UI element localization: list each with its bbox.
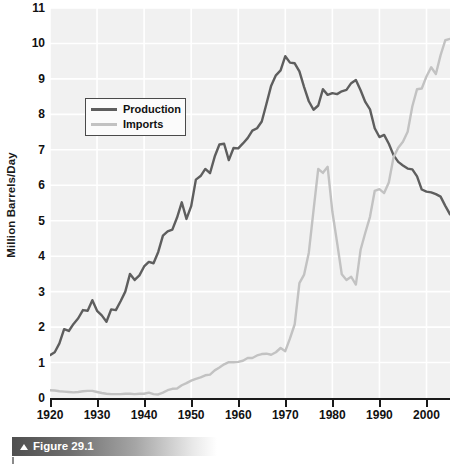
y-axis-tick-labels: 01234567891011 [22,0,50,410]
x-tick-mark [144,400,146,407]
x-tick-label: 1960 [225,408,252,422]
y-tick-label: 11 [32,2,45,14]
y-tick-label: 1 [38,357,45,369]
legend-label-production: Production [123,104,181,115]
y-tick-label: 2 [38,321,45,333]
x-tick-label: 1930 [84,408,111,422]
y-axis-title-text: Million Barrels/Day [5,152,17,257]
y-tick-label: 4 [38,250,45,262]
x-axis-tick-labels: 192019301940195019601970198019902000 [50,408,450,426]
legend-swatch-production [91,108,117,112]
legend-swatch-imports [91,123,117,127]
x-tick-label: 2000 [413,408,440,422]
legend-item-production: Production [91,102,180,117]
legend-item-imports: Imports [91,117,180,132]
x-tick-label: 1990 [366,408,393,422]
y-tick-label: 8 [38,108,45,120]
figure-caption-text: Figure 29.1 [33,441,94,453]
figure-container: Million Barrels/Day 01234567891011 19201… [0,0,462,464]
x-tick-mark [285,400,287,407]
plot-svg [50,8,450,398]
y-tick-label: 0 [38,392,45,404]
gridlines [50,8,450,398]
x-tick-mark [379,400,381,407]
y-tick-label: 9 [38,73,45,85]
y-tick-label: 10 [32,37,45,49]
x-tick-mark [191,400,193,407]
y-tick-label: 3 [38,286,45,298]
x-tick-label: 1970 [272,408,299,422]
x-axis-ticks [50,400,450,407]
y-tick-label: 6 [38,179,45,191]
x-tick-label: 1940 [131,408,158,422]
x-tick-mark [50,400,52,407]
caption-rule [12,457,14,464]
x-tick-mark [238,400,240,407]
figure-caption-bar: Figure 29.1 [12,437,217,456]
x-tick-label: 1950 [178,408,205,422]
y-tick-label: 7 [38,144,45,156]
x-tick-mark [426,400,428,407]
legend-label-imports: Imports [123,119,163,130]
x-tick-mark [97,400,99,407]
data-series-group [50,39,450,395]
x-tick-label: 1980 [319,408,346,422]
triangle-up-icon [20,444,28,450]
chart-legend: Production Imports [85,98,186,136]
series-line-imports [50,39,450,395]
plot-area [50,8,450,398]
x-tick-label: 1920 [37,408,64,422]
x-tick-mark [332,400,334,407]
y-axis-title: Million Barrels/Day [0,0,22,410]
y-tick-label: 5 [38,215,45,227]
